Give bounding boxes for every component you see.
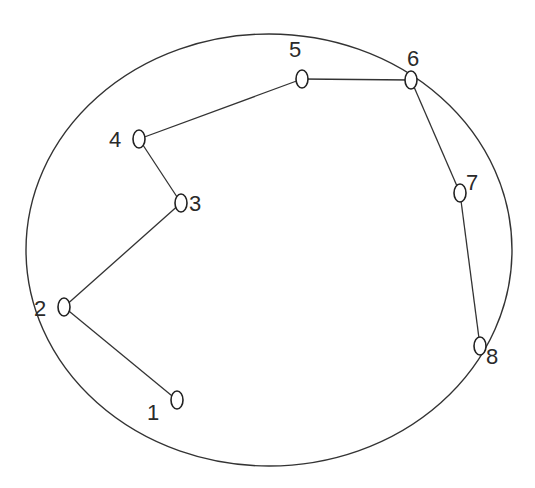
edges-group <box>64 79 480 400</box>
node-5 <box>296 70 308 88</box>
node-label-7: 7 <box>466 170 478 195</box>
node-7 <box>454 184 466 202</box>
node-label-4: 4 <box>109 127 121 152</box>
node-8 <box>474 337 486 355</box>
labels-group: 12345678 <box>34 37 498 425</box>
edge-6-7 <box>411 80 460 193</box>
edge-7-8 <box>460 193 480 346</box>
edge-5-6 <box>302 79 411 80</box>
edge-2-3 <box>64 203 181 307</box>
node-label-5: 5 <box>289 37 301 62</box>
boundary-ellipse <box>26 34 512 466</box>
graph-diagram: 12345678 <box>0 0 535 488</box>
edge-4-5 <box>139 79 302 139</box>
node-label-2: 2 <box>34 296 46 321</box>
nodes-group <box>58 70 486 409</box>
node-4 <box>133 130 145 148</box>
node-1 <box>171 391 183 409</box>
node-label-8: 8 <box>486 344 498 369</box>
node-6 <box>405 71 417 89</box>
edge-3-4 <box>139 139 181 203</box>
node-label-3: 3 <box>189 191 201 216</box>
node-label-6: 6 <box>407 46 419 71</box>
node-2 <box>58 298 70 316</box>
node-3 <box>175 194 187 212</box>
node-label-1: 1 <box>147 400 159 425</box>
